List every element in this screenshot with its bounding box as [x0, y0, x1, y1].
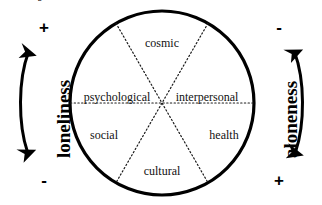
sector-label-psychological: psychological: [84, 91, 151, 103]
sector-label-social: social: [90, 129, 118, 141]
sector-label-health: health: [209, 129, 238, 141]
loneliness-arrow: [20, 52, 28, 152]
diagram-canvas: g cosmic interpersonal health cultural s…: [0, 0, 322, 205]
loneliness-top-sign: +: [39, 19, 49, 36]
aloneness-axis-label: aloneness: [281, 81, 300, 158]
loneliness-bottom-sign: -: [41, 172, 47, 189]
sector-label-cultural: cultural: [144, 165, 181, 177]
aloneness-top-sign: -: [276, 19, 282, 36]
aloneness-bottom-sign: +: [274, 172, 284, 189]
cropped-text-artifact: g: [37, 0, 47, 1]
sector-label-interpersonal: interpersonal: [176, 91, 239, 103]
loneliness-axis-label: loneliness: [54, 80, 73, 158]
sector-label-cosmic: cosmic: [145, 37, 179, 49]
